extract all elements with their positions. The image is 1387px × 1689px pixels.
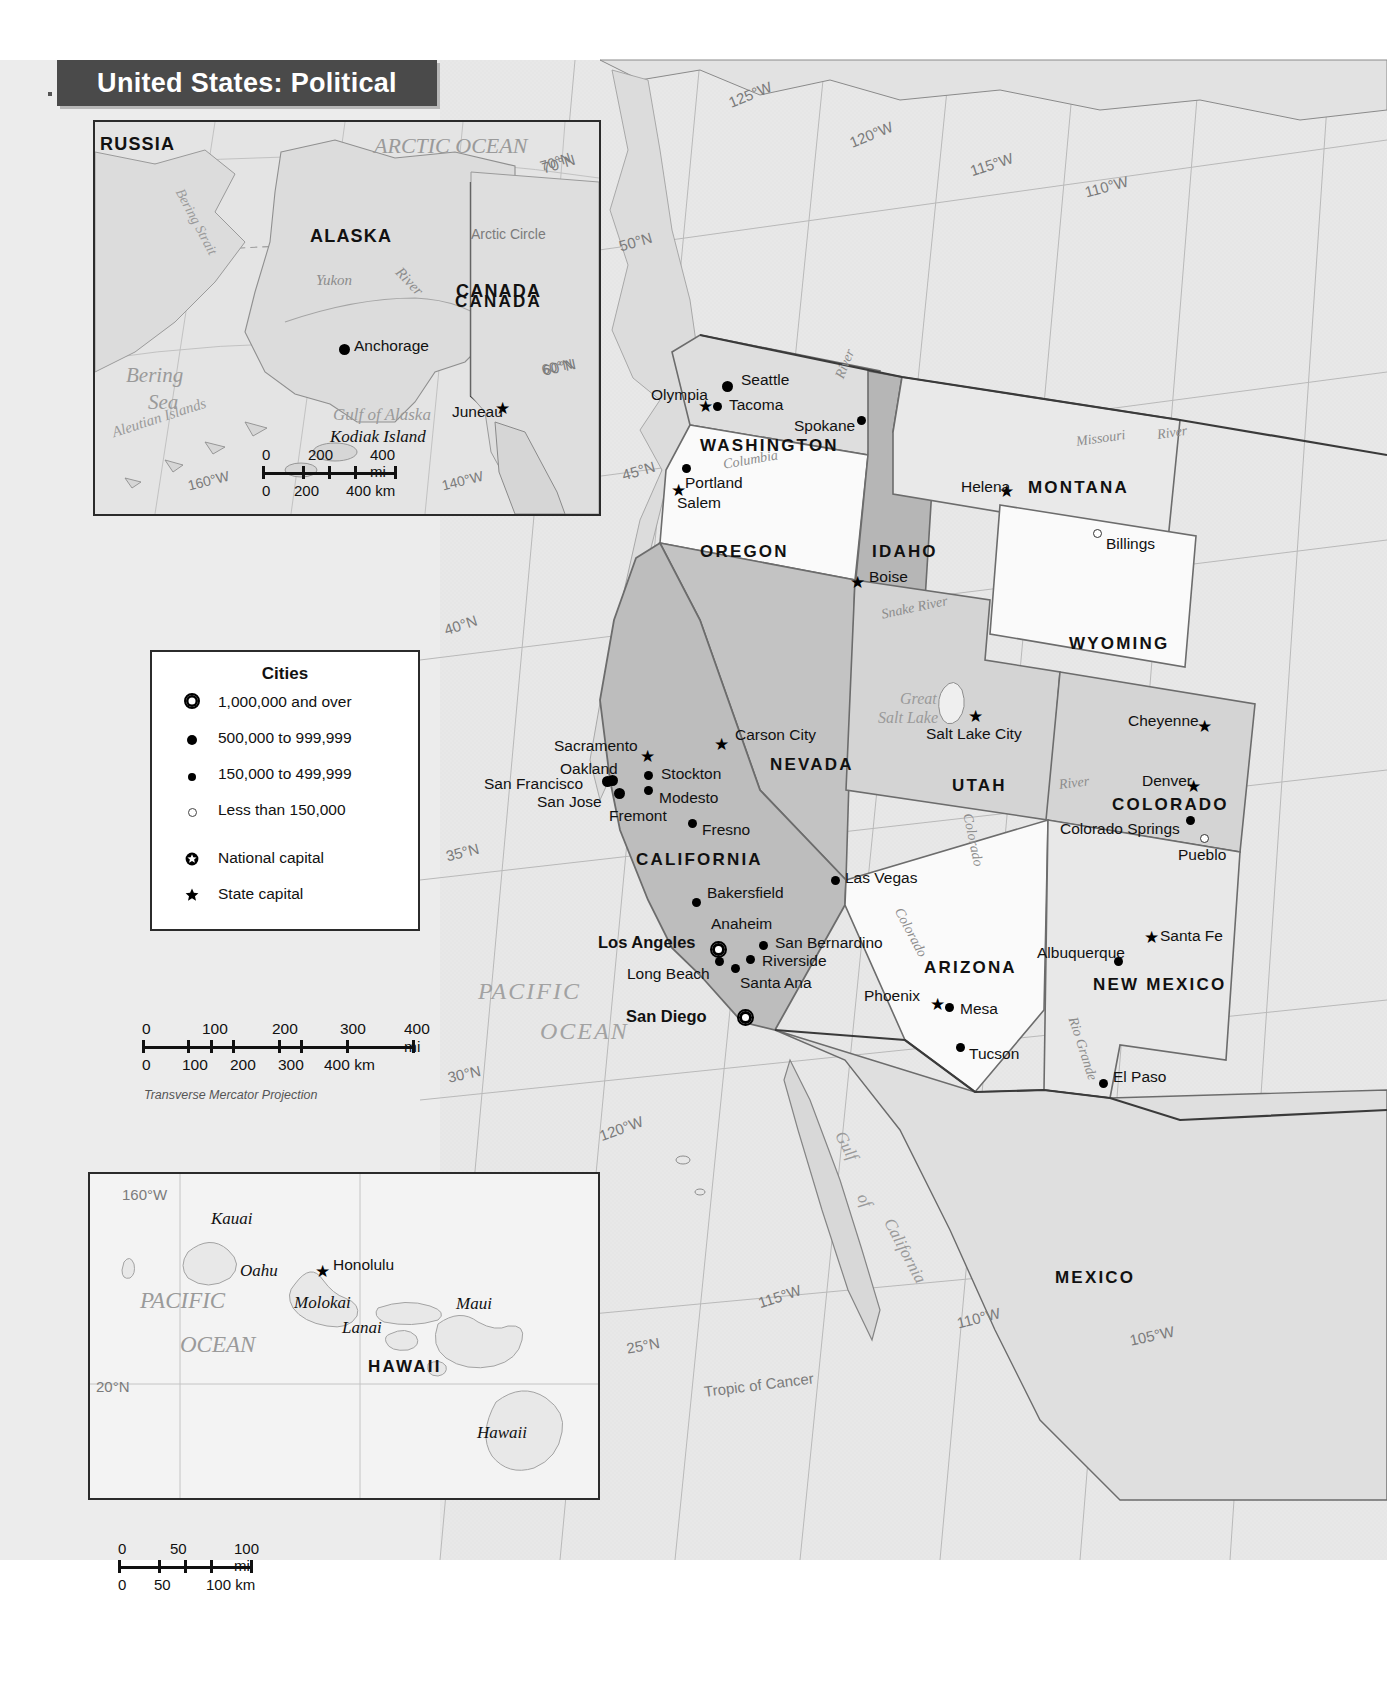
large-city-symbol-icon (166, 730, 218, 747)
ak-scale-mi-0: 0 (262, 446, 270, 463)
map-label: Portland (685, 474, 743, 492)
city-marker-md (759, 941, 768, 950)
map-label: Colorado Springs (1060, 820, 1180, 838)
map-label: RUSSIA (100, 134, 175, 155)
legend-item-label: Less than 150,000 (218, 801, 346, 819)
city-marker-md (1186, 816, 1195, 825)
map-label: Stockton (661, 765, 721, 783)
city-marker-md (692, 898, 701, 907)
map-label: Helena (961, 478, 1010, 496)
scale-km-100: 100 (182, 1056, 208, 1074)
map-label: Santa Ana (740, 974, 812, 992)
map-label: San Jose (537, 793, 602, 811)
legend-title: Cities (152, 664, 418, 684)
scale-mi-100: 100 (202, 1020, 228, 1038)
map-label: El Paso (1113, 1068, 1166, 1086)
map-label: Riverside (762, 952, 827, 970)
city-marker-md (831, 876, 840, 885)
map-label: CALIFORNIA (636, 850, 763, 870)
map-label: Santa Fe (1160, 927, 1223, 945)
city-marker-md (1099, 1079, 1108, 1088)
map-label: San Francisco (484, 775, 583, 793)
ak-scale-km-0: 0 (262, 482, 270, 499)
map-label: HAWAII (368, 1357, 442, 1377)
city-marker-md (857, 416, 866, 425)
scale-mi-200: 200 (272, 1020, 298, 1038)
map-label: Long Beach (627, 965, 710, 983)
city-marker-md (644, 786, 653, 795)
legend-item-national-capital: National capital (152, 840, 418, 876)
map-page: United States: Political (0, 0, 1387, 1689)
map-label: Cheyenne (1128, 712, 1199, 730)
small-city-symbol-icon (166, 802, 218, 819)
hi-scale-km-0: 0 (118, 1576, 126, 1593)
city-marker-md (644, 771, 653, 780)
map-label: Salem (677, 494, 721, 512)
map-label: San Bernardino (775, 934, 883, 952)
scale-km-0: 0 (142, 1056, 151, 1074)
map-label: Olympia (651, 386, 708, 404)
city-marker-lg (722, 381, 733, 392)
map-label: Lanai (342, 1318, 382, 1338)
map-label: WYOMING (1069, 634, 1169, 654)
map-label: Tucson (969, 1045, 1019, 1063)
map-label: NEW MEXICO (1093, 975, 1226, 995)
map-label: ARCTIC OCEAN (374, 133, 527, 159)
map-label: IDAHO (872, 542, 938, 562)
map-label: Anchorage (354, 337, 429, 355)
legend-item-state-capital: State capital (152, 876, 418, 912)
map-label: UTAH (952, 776, 1007, 796)
state-capital-symbol-icon (166, 886, 218, 903)
map-label: Yukon (316, 272, 352, 289)
map-label: OCEAN (180, 1332, 255, 1358)
city-marker-sm (1093, 529, 1102, 538)
map-title-banner: United States: Political (57, 60, 437, 106)
map-label: NEVADA (770, 755, 854, 775)
map-label: Billings (1106, 535, 1155, 553)
map-label: Carson City (735, 726, 816, 744)
state-capital-star-icon: ★ (1144, 929, 1159, 946)
city-marker-md (715, 957, 724, 966)
map-label: ALASKA (310, 226, 392, 247)
ak-scale-km-200: 200 (294, 482, 319, 499)
hi-scale-ruler (118, 1560, 268, 1574)
map-label: Hawaii (477, 1423, 527, 1443)
legend-item-label: National capital (218, 849, 324, 867)
map-label: Anaheim (711, 915, 772, 933)
map-label: Mesa (960, 1000, 998, 1018)
map-label: Boise (869, 568, 908, 586)
legend-item-label: 500,000 to 999,999 (218, 729, 352, 747)
city-marker-md (688, 819, 697, 828)
hawaii-scale-bar: 0 50 100 mi 0 50 100 km (118, 1540, 258, 1596)
title-accent-dot (48, 92, 52, 96)
city-marker-md (746, 955, 755, 964)
map-label: San Diego (626, 1007, 707, 1026)
map-label: Seattle (741, 371, 789, 389)
scale-km-200: 200 (230, 1056, 256, 1074)
map-label: Salt Lake City (926, 725, 1022, 743)
city-marker-md (713, 402, 722, 411)
map-label: Arctic Circle (471, 226, 546, 242)
map-label: Kauai (211, 1209, 253, 1229)
map-label: Los Angeles (598, 933, 696, 952)
legend-item-500k-999k: 500,000 to 999,999 (152, 720, 418, 756)
medium-city-symbol-icon (166, 766, 218, 783)
map-label: Fresno (702, 821, 750, 839)
map-label: Maui (456, 1294, 492, 1314)
city-marker-md (731, 964, 740, 973)
legend-item-150k-499k: 150,000 to 499,999 (152, 756, 418, 792)
city-marker-sm (1200, 834, 1209, 843)
map-label: CANADA (456, 281, 541, 302)
projection-note: Transverse Mercator Projection (144, 1088, 317, 1102)
main-scale-bar: 0 100 200 300 400 mi 0 100 200 300 400 k… (142, 1020, 442, 1076)
map-label: 160°W (122, 1186, 167, 1203)
state-capital-star-icon: ★ (640, 748, 655, 765)
map-label: COLORADO (1112, 795, 1229, 815)
hi-scale-km-100: 100 km (206, 1576, 255, 1593)
map-label: OREGON (700, 542, 789, 562)
ak-scale-mi-200: 200 (308, 446, 333, 463)
hi-scale-km-50: 50 (154, 1576, 171, 1593)
map-label: 20°N (96, 1378, 130, 1395)
city-marker-md (945, 1003, 954, 1012)
map-label: Juneau (452, 403, 503, 421)
